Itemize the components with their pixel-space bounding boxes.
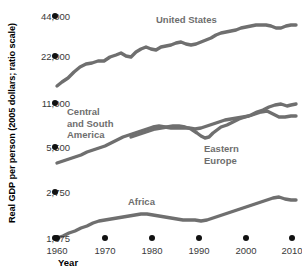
series-line-eastern-europe <box>131 104 296 138</box>
series-line-united-states <box>57 25 296 86</box>
series-label-central-south-america-line-1: Central <box>67 106 113 118</box>
x-axis-title: Year <box>58 257 78 268</box>
x-tick-label-1980: 1980 <box>132 245 172 256</box>
y-tick-dot-2750 <box>52 189 58 195</box>
series-label-united-states: United States <box>156 14 217 26</box>
x-tick-label-2000: 2000 <box>226 245 266 256</box>
x-tick-dot-2000 <box>243 235 249 241</box>
y-tick-label-22000: 22,000 <box>10 51 70 62</box>
series-label-central-south-america: Central and South America <box>67 106 113 141</box>
series-label-central-south-america-line-2: and South <box>67 118 113 130</box>
x-tick-label-1970: 1970 <box>85 245 125 256</box>
x-tick-dot-1980 <box>149 235 155 241</box>
y-tick-dot-11000 <box>52 100 58 106</box>
series-line-africa <box>57 197 296 238</box>
y-tick-label-2750: 2,750 <box>10 187 70 198</box>
x-tick-label-2010: 2010 <box>272 245 302 256</box>
x-tick-label-1990: 1990 <box>179 245 219 256</box>
y-tick-label-5500: 5,500 <box>10 142 70 153</box>
x-tick-dot-1960 <box>54 235 60 241</box>
x-tick-dot-2010 <box>289 235 295 241</box>
y-tick-dot-5500 <box>52 144 58 150</box>
x-tick-label-1960: 1960 <box>37 245 77 256</box>
gdp-per-person-chart: Real GDP per person (2005 dollars; ratio… <box>0 0 302 272</box>
series-label-africa: Africa <box>128 196 155 208</box>
series-label-eastern-europe-line-2: Europe <box>204 155 239 167</box>
y-tick-dot-22000 <box>52 53 58 59</box>
series-label-eastern-europe-line-1: Eastern <box>204 143 239 155</box>
series-label-central-south-america-line-3: America <box>67 129 113 141</box>
series-label-eastern-europe: Eastern Europe <box>204 143 239 166</box>
y-tick-dot-44000 <box>52 13 58 19</box>
x-tick-dot-1970 <box>102 235 108 241</box>
y-tick-label-1375: 1,375 <box>10 233 70 244</box>
plot-area <box>0 0 302 272</box>
y-tick-label-44000: 44,000 <box>10 11 70 22</box>
y-tick-label-11000: 11,000 <box>10 98 70 109</box>
x-tick-dot-1990 <box>196 235 202 241</box>
